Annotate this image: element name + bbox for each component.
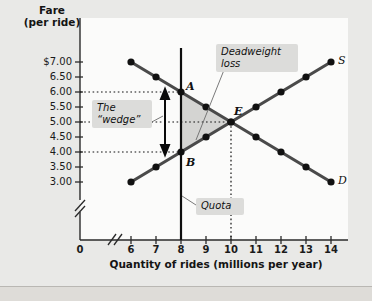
x-tick-label-11: 11 [245, 244, 267, 255]
figure-footer-bar [0, 286, 372, 301]
x-axis-title: Quantity of rides (millions per year) [60, 258, 372, 270]
x-tick-label-8: 8 [170, 244, 192, 255]
y-tick-label-3-50: 3.50 [20, 161, 72, 172]
quota-callout: Quota [196, 198, 244, 215]
chart-figure: Fare (per ride) $7.00 6.50 6.00 5.50 5.0… [0, 0, 372, 301]
x-tick-label-10: 10 [220, 244, 242, 255]
x-tick-label-7: 7 [145, 244, 167, 255]
wedge-callout: The “wedge” [92, 100, 152, 128]
point-a-label: A [186, 80, 195, 93]
x-tick-label-13: 13 [295, 244, 317, 255]
x-tick-label-6: 6 [120, 244, 142, 255]
x-tick-label-14: 14 [320, 244, 342, 255]
supply-curve-label: S [338, 54, 346, 67]
wedge-arrow [161, 89, 169, 155]
y-tick-label-7-00: $7.00 [20, 56, 72, 67]
demand-curve-label: D [338, 174, 347, 187]
deadweight-loss-callout: Deadweight loss [216, 44, 298, 72]
y-tick-label-6-50: 6.50 [20, 71, 72, 82]
y-tick-label-4-50: 4.50 [20, 131, 72, 142]
y-tick-label-5-50: 5.50 [20, 101, 72, 112]
y-axis-title-line2: (per ride) [24, 16, 80, 28]
quota-leader-line [182, 196, 196, 205]
y-tick-label-6-00: 6.00 [20, 86, 72, 97]
point-e-label: E [234, 105, 242, 118]
x-tick-label-12: 12 [270, 244, 292, 255]
y-tick-marks [75, 62, 83, 182]
x-tick-label-0: 0 [69, 244, 91, 255]
y-axis-title: Fare (per ride) [14, 4, 90, 28]
y-tick-label-3-00: 3.00 [20, 176, 72, 187]
point-b-label: B [186, 156, 195, 169]
y-axis-title-line1: Fare [39, 4, 65, 16]
y-tick-label-4-00: 4.00 [20, 146, 72, 157]
x-tick-label-9: 9 [195, 244, 217, 255]
y-tick-label-5-00: 5.00 [20, 116, 72, 127]
